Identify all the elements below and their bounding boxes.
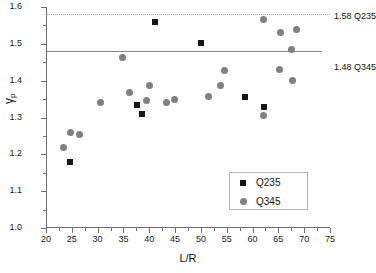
y-tick-label: 1.3 bbox=[0, 113, 22, 122]
y-axis-title: γp bbox=[2, 94, 16, 104]
x-tick-minor bbox=[214, 228, 215, 231]
y-tick-label: 1.6 bbox=[0, 2, 22, 11]
data-point-q345 bbox=[260, 112, 267, 119]
x-tick-major bbox=[304, 228, 305, 233]
y-tick-major bbox=[41, 118, 46, 119]
y-tick-major bbox=[41, 154, 46, 155]
data-point-q235 bbox=[242, 94, 248, 100]
data-point-q345 bbox=[143, 97, 150, 104]
x-tick-major bbox=[253, 228, 254, 233]
x-tick-minor bbox=[162, 228, 163, 231]
x-tick-major bbox=[227, 228, 228, 233]
x-tick-label: 75 bbox=[315, 235, 345, 244]
x-tick-major bbox=[278, 228, 279, 233]
data-point-q345 bbox=[205, 93, 212, 100]
x-tick-minor bbox=[265, 228, 266, 231]
data-point-q345 bbox=[97, 99, 104, 106]
y-tick-label: 1.2 bbox=[0, 149, 22, 158]
data-point-q345 bbox=[277, 29, 284, 36]
x-tick-major bbox=[201, 228, 202, 233]
reference-line-q235-limit bbox=[46, 14, 330, 15]
x-tick-major bbox=[175, 228, 176, 233]
reference-label-bottom: 1.48 Q345 bbox=[334, 62, 376, 72]
y-tick-minor bbox=[43, 25, 46, 26]
x-tick-minor bbox=[291, 228, 292, 231]
data-point-q235 bbox=[67, 159, 73, 165]
y-tick-label: 1.5 bbox=[0, 39, 22, 48]
x-tick-minor bbox=[317, 228, 318, 231]
y-tick-major bbox=[41, 7, 46, 8]
legend-swatch-circle-icon bbox=[230, 198, 256, 205]
x-tick-major bbox=[149, 228, 150, 233]
x-tick-minor bbox=[85, 228, 86, 231]
data-point-q345 bbox=[126, 89, 133, 96]
data-point-q235 bbox=[152, 19, 158, 25]
x-tick-minor bbox=[240, 228, 241, 231]
data-point-q345 bbox=[289, 77, 296, 84]
data-point-q345 bbox=[293, 26, 300, 33]
data-point-q345 bbox=[119, 54, 126, 61]
x-tick-minor bbox=[111, 228, 112, 231]
data-point-q345 bbox=[171, 96, 178, 103]
x-tick-major bbox=[72, 228, 73, 233]
legend: Q235 Q345 bbox=[229, 172, 308, 210]
x-tick-major bbox=[123, 228, 124, 233]
y-tick-minor bbox=[43, 62, 46, 63]
x-tick-major bbox=[46, 228, 47, 233]
y-tick-major bbox=[41, 81, 46, 82]
x-axis-title: L/R bbox=[46, 252, 330, 264]
x-tick-minor bbox=[59, 228, 60, 231]
data-point-q345 bbox=[76, 131, 83, 138]
legend-item-q235: Q235 bbox=[230, 173, 309, 192]
y-axis-title-subscript: p bbox=[8, 94, 17, 98]
data-point-q345 bbox=[221, 67, 228, 74]
data-point-q345 bbox=[163, 99, 170, 106]
data-point-q235 bbox=[134, 102, 140, 108]
data-point-q235 bbox=[198, 40, 204, 46]
data-point-q345 bbox=[260, 16, 267, 23]
data-point-q235 bbox=[261, 104, 267, 110]
data-point-q345 bbox=[146, 82, 153, 89]
y-tick-minor bbox=[43, 99, 46, 100]
y-axis-title-symbol: γ bbox=[2, 98, 16, 104]
data-point-q235 bbox=[139, 111, 145, 117]
y-tick-major bbox=[41, 191, 46, 192]
y-tick-label: 1.1 bbox=[0, 186, 22, 195]
legend-label-q235: Q235 bbox=[256, 177, 280, 188]
legend-swatch-square-icon bbox=[230, 180, 256, 186]
legend-label-q345: Q345 bbox=[256, 196, 280, 207]
x-tick-minor bbox=[188, 228, 189, 231]
data-point-q345 bbox=[60, 144, 67, 151]
y-tick-minor bbox=[43, 210, 46, 211]
data-point-q345 bbox=[67, 129, 74, 136]
data-point-q345 bbox=[276, 66, 283, 73]
y-tick-minor bbox=[43, 173, 46, 174]
y-tick-major bbox=[41, 44, 46, 45]
legend-item-q345: Q345 bbox=[230, 192, 309, 211]
y-tick-label: 1.4 bbox=[0, 76, 22, 85]
reference-line-q345-limit bbox=[46, 51, 322, 52]
y-axis-line bbox=[46, 7, 47, 228]
y-tick-label: 1.0 bbox=[0, 223, 22, 232]
x-tick-major bbox=[98, 228, 99, 233]
x-tick-major bbox=[330, 228, 331, 233]
y-tick-minor bbox=[43, 136, 46, 137]
reference-label-top: 1.58 Q235 bbox=[334, 11, 376, 21]
data-point-q345 bbox=[217, 82, 224, 89]
x-tick-minor bbox=[136, 228, 137, 231]
